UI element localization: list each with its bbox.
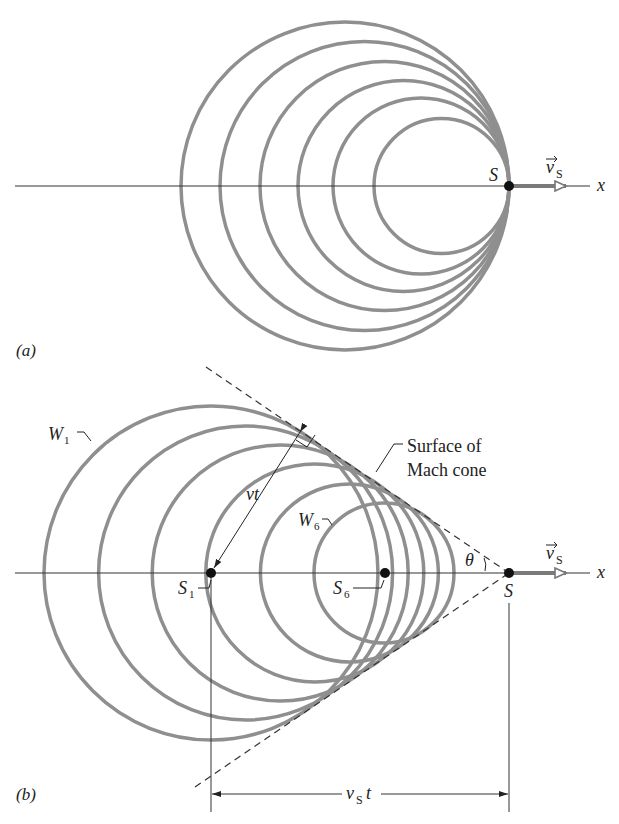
doppler-mach-cone-diagram: S v S x (a) W 1 W 6 xyxy=(0,0,619,824)
axis-label-b: x xyxy=(596,562,605,582)
svg-text:θ: θ xyxy=(465,550,474,570)
svg-text:W: W xyxy=(298,510,315,530)
source-s6-dot xyxy=(380,568,390,578)
svg-text:S: S xyxy=(556,553,563,567)
svg-text:6: 6 xyxy=(344,588,350,600)
svg-text:v: v xyxy=(546,543,554,563)
dimension-label: v S t xyxy=(346,783,372,807)
source-dot-a xyxy=(504,181,514,191)
panel-label-a: (a) xyxy=(16,341,36,360)
svg-text:Surface of: Surface of xyxy=(407,436,481,456)
svg-text:1: 1 xyxy=(189,588,195,600)
velocity-label-b: v S xyxy=(546,542,563,567)
vt-label: vt xyxy=(246,484,260,504)
axis-label-a: x xyxy=(596,175,605,195)
velocity-label-a: v S xyxy=(546,156,563,181)
angle-arc-icon xyxy=(484,558,486,571)
svg-text:v: v xyxy=(546,157,554,177)
svg-text:S: S xyxy=(356,793,363,807)
w1-label: W 1 xyxy=(48,424,91,446)
w6-label: W 6 xyxy=(298,510,332,532)
mach-cone-label: Surface of Mach cone xyxy=(376,436,486,480)
panel-b: W 1 W 6 S 1 S 6 S vt θ Surface of Mach c xyxy=(15,367,605,812)
svg-text:v: v xyxy=(346,783,354,803)
svg-text:t: t xyxy=(366,783,372,803)
svg-text:S: S xyxy=(556,167,563,181)
svg-text:S: S xyxy=(178,578,187,598)
svg-text:1: 1 xyxy=(64,434,70,446)
svg-text:Mach cone: Mach cone xyxy=(407,460,486,480)
theta-label: θ xyxy=(465,550,486,571)
svg-text:6: 6 xyxy=(314,520,320,532)
svg-text:W: W xyxy=(48,424,65,444)
source-s-dot-b xyxy=(504,568,514,578)
source-label-b: S xyxy=(504,581,513,601)
panel-label-b: (b) xyxy=(16,785,36,804)
source-s1-dot xyxy=(206,568,216,578)
source-label-a: S xyxy=(489,165,498,185)
panel-a: S v S x (a) xyxy=(15,22,605,360)
svg-text:S: S xyxy=(333,578,342,598)
